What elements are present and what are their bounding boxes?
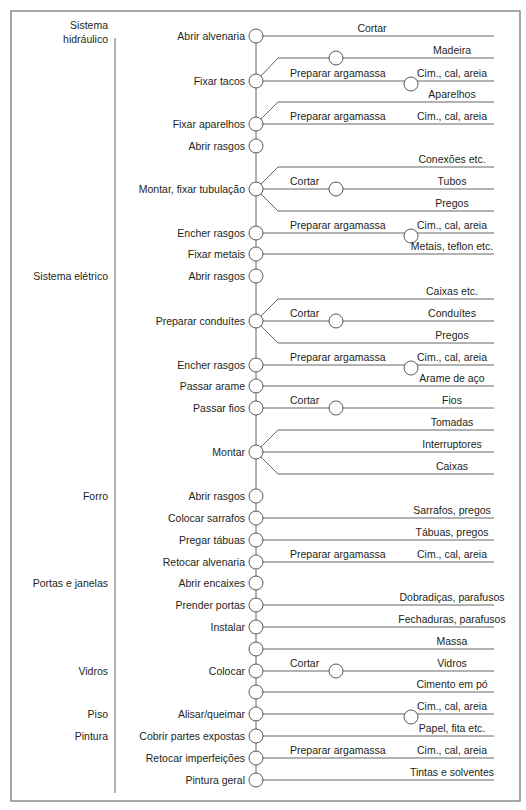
step-node-icon bbox=[249, 773, 263, 787]
material-label: Arame de aço bbox=[419, 372, 485, 384]
section-label: Sistema elétrico bbox=[33, 270, 108, 282]
process-step: Passar fios bbox=[193, 401, 263, 415]
step-label: Pintura geral bbox=[185, 774, 245, 786]
preparation-node-icon bbox=[404, 710, 418, 724]
step-node-icon bbox=[249, 555, 263, 569]
step-label: Abrir rasgos bbox=[188, 270, 245, 282]
branch: Preparar argamassaCim., cal, areia bbox=[263, 744, 494, 758]
step-label: Pregar tábuas bbox=[179, 534, 245, 546]
step-node-icon bbox=[249, 358, 263, 372]
step-label: Abrir encaixes bbox=[178, 577, 245, 589]
material-label: Caixas bbox=[436, 460, 468, 472]
step-label: Abrir rasgos bbox=[188, 490, 245, 502]
step-node-icon bbox=[249, 664, 263, 678]
step-label: Colocar bbox=[209, 665, 246, 677]
section-label: Portas e janelas bbox=[33, 577, 108, 589]
step-label: Prender portas bbox=[176, 599, 245, 611]
material-label: Tomadas bbox=[431, 416, 474, 428]
step-label: Colocar sarrafos bbox=[168, 512, 245, 524]
section-label: Forro bbox=[83, 490, 108, 502]
branch: Pregos bbox=[261, 326, 494, 343]
material-label: Madeira bbox=[433, 44, 471, 56]
material-label: Tintas e solventes bbox=[410, 766, 494, 778]
material-label: Cim., cal, areia bbox=[417, 548, 487, 560]
material-label: Aparelhos bbox=[428, 88, 475, 100]
step-node-icon bbox=[249, 642, 263, 656]
material-label: Caixas etc. bbox=[426, 285, 478, 297]
material-label: Fios bbox=[442, 394, 462, 406]
process-step: Montar, fixar tubulação bbox=[139, 182, 263, 196]
step-label: Fixar metais bbox=[188, 248, 245, 260]
branch: Fechaduras, parafusos bbox=[263, 613, 506, 627]
step-label: Montar, fixar tubulação bbox=[139, 183, 245, 195]
process-step: Montar bbox=[212, 445, 263, 459]
branch: Interruptores bbox=[263, 438, 494, 452]
section-label: Pintura bbox=[75, 730, 108, 742]
process-step: Encher rasgos bbox=[177, 226, 263, 240]
branch: CortarTubos bbox=[263, 175, 494, 196]
step-node-icon bbox=[249, 511, 263, 525]
intermediate-node-icon bbox=[329, 182, 343, 196]
branch: Pregos bbox=[261, 194, 494, 211]
section-labels: SistemahidráulicoSistema elétricoForroPo… bbox=[33, 19, 108, 742]
step-node-icon bbox=[249, 598, 263, 612]
material-label: Papel, fita etc. bbox=[419, 722, 486, 734]
material-label: Vidros bbox=[437, 657, 467, 669]
activity-label: Preparar argamassa bbox=[290, 219, 386, 231]
process-step: Prender portas bbox=[176, 598, 263, 612]
process-step: Abrir rasgos bbox=[188, 269, 263, 283]
step-node-icon bbox=[249, 707, 263, 721]
material-label: Dobradiças, parafusos bbox=[399, 591, 504, 603]
step-node-icon bbox=[249, 533, 263, 547]
process-steps: Abrir alvenariaFixar tacosFixar aparelho… bbox=[139, 29, 263, 787]
activity-label: Cortar bbox=[290, 394, 320, 406]
step-label: Montar bbox=[212, 446, 245, 458]
material-label: Cim., cal, areia bbox=[417, 351, 487, 363]
section-label: Piso bbox=[88, 708, 109, 720]
process-step: Abrir rasgos bbox=[188, 489, 263, 503]
material-label: Massa bbox=[437, 635, 468, 647]
branch: Dobradiças, parafusos bbox=[263, 591, 505, 605]
branch: CortarVidros bbox=[263, 657, 494, 678]
step-label: Passar fios bbox=[193, 402, 245, 414]
step-label: Retocar imperfeições bbox=[146, 752, 245, 764]
branch: Preparar argamassaCim., cal, areia bbox=[263, 548, 494, 562]
process-step bbox=[249, 642, 263, 656]
activity-label: Preparar argamassa bbox=[290, 548, 386, 560]
process-step: Instalar bbox=[211, 620, 263, 634]
branch: Cimento em pó bbox=[263, 678, 494, 692]
material-label: Pregos bbox=[435, 197, 468, 209]
step-node-icon bbox=[249, 489, 263, 503]
process-step: Colocar sarrafos bbox=[168, 511, 263, 525]
step-node-icon bbox=[249, 401, 263, 415]
branch: CortarConduítes bbox=[263, 307, 494, 328]
section-label: Sistema bbox=[70, 19, 108, 31]
intermediate-node-icon bbox=[329, 51, 343, 65]
branch: CortarFios bbox=[263, 394, 494, 415]
process-step: Fixar aparelhos bbox=[173, 117, 263, 131]
process-step: Fixar metais bbox=[188, 247, 263, 261]
step-node-icon bbox=[249, 117, 263, 131]
activity-label: Cortar bbox=[290, 307, 320, 319]
process-step: Alisar/queimar bbox=[178, 707, 263, 721]
step-node-icon bbox=[249, 445, 263, 459]
activity-label: Preparar argamassa bbox=[290, 744, 386, 756]
activity-label: Cortar bbox=[357, 22, 387, 34]
process-step: Abrir encaixes bbox=[178, 576, 263, 590]
process-step bbox=[249, 685, 263, 699]
step-node-icon bbox=[249, 729, 263, 743]
preparation-node-icon bbox=[404, 77, 418, 91]
section-label: hidráulico bbox=[63, 33, 108, 45]
step-node-icon bbox=[249, 269, 263, 283]
step-node-icon bbox=[249, 576, 263, 590]
material-label: Sarrafos, pregos bbox=[413, 504, 491, 516]
branch: Tábuas, pregos bbox=[263, 526, 494, 540]
activity-label: Cortar bbox=[290, 657, 320, 669]
branch: Sarrafos, pregos bbox=[263, 504, 494, 518]
branch: Massa bbox=[263, 635, 494, 649]
section-label: Vidros bbox=[78, 665, 108, 677]
material-label: Cim., cal, areia bbox=[417, 219, 487, 231]
branch: Tintas e solventes bbox=[263, 766, 494, 780]
process-step: Fixar tacos bbox=[194, 74, 263, 88]
intermediate-node-icon bbox=[329, 664, 343, 678]
